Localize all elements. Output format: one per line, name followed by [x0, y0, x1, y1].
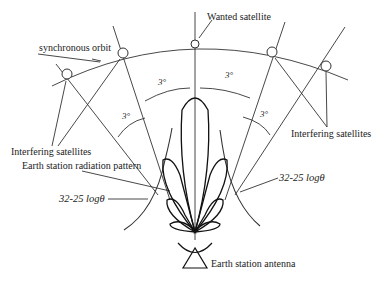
satellite-interfering-far-right [321, 61, 331, 71]
synchronous-orbit-arc [52, 49, 348, 86]
interfering-right-pointer-1 [275, 58, 327, 127]
satellite-interfering-far-left [62, 69, 72, 79]
ray-far-left [56, 64, 158, 195]
label-envelope-right: 32-25 logθ [279, 173, 325, 184]
interfering-left-pointer-1 [52, 81, 66, 146]
satellite-interfering-left [118, 48, 128, 58]
angle-arc-upper-left [145, 88, 190, 101]
satellite-wanted [191, 40, 199, 48]
label-envelope-left: 32-25 logθ [59, 194, 105, 205]
angle-arc-upper-right [200, 88, 250, 98]
wanted-pointer [199, 20, 212, 38]
label-interfering-satellites-right: Interfering satellites [291, 129, 371, 139]
label-radiation-pattern: Earth station radiation pattern [22, 161, 141, 171]
antenna-base [183, 248, 207, 268]
label-synchronous-orbit: synchronous orbit [39, 43, 111, 53]
angle-arc-lower-right [243, 117, 270, 135]
radiation-pattern-pointer [82, 171, 170, 191]
label-antenna: Earth station antenna [211, 259, 295, 269]
interfering-right-pointer-2 [326, 72, 327, 127]
label-angle-lower-right: 3° [260, 110, 268, 119]
label-angle-upper-right: 3° [225, 71, 233, 80]
label-angle-lower-left: 3° [122, 112, 130, 121]
satellite-interfering-right [267, 47, 277, 57]
envelope-right-pointer [240, 178, 278, 192]
label-angle-upper-left: 3° [158, 78, 166, 87]
label-wanted-satellite: Wanted satellite [207, 12, 271, 22]
label-interfering-satellites-left: Interfering satellites [11, 147, 91, 157]
